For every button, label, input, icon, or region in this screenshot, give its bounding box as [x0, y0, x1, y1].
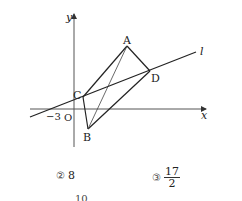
segment-AD [127, 46, 150, 71]
label-minus3: −3 [46, 111, 61, 122]
label-C: C [73, 89, 81, 102]
label-B: B [83, 131, 91, 144]
label-y: y [65, 11, 73, 24]
choice-2-value: 8 [68, 169, 75, 182]
choice-2: ②8 [56, 169, 75, 182]
label-l: l [200, 45, 204, 58]
choice-2-marker: ② [56, 170, 65, 181]
label-x: x [201, 109, 208, 122]
choice-3: ③172 [152, 166, 180, 189]
label-A: A [122, 34, 132, 47]
fraction-denominator: 2 [164, 178, 180, 189]
segment-AC [83, 46, 127, 97]
coordinate-diagram: A D C B l x y O −3 [0, 0, 242, 201]
choice-3-marker: ③ [152, 172, 161, 183]
choice-3-fraction: 172 [164, 166, 180, 189]
cut-off-text: 10 [75, 193, 88, 201]
segment-CB [83, 97, 88, 129]
label-D: D [151, 72, 160, 85]
label-origin: O [64, 112, 72, 123]
segment-AB [88, 46, 127, 129]
